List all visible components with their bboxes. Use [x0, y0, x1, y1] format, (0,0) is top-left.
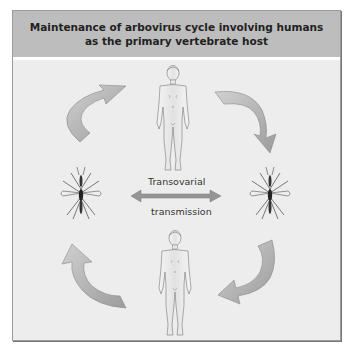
human-figure-bottom — [159, 231, 191, 336]
human-figure-top — [157, 66, 189, 171]
transovarial-double-arrow — [131, 190, 221, 202]
arrow-mosquito-left-to-human-top — [67, 85, 126, 142]
arrow-human-bottom-to-mosquito-left — [62, 244, 126, 308]
arrow-mosquito-right-to-human-bottom — [218, 240, 275, 304]
label-transovarial: Transovarial — [148, 176, 205, 187]
mosquito-right — [250, 167, 290, 219]
label-transmission: transmission — [151, 206, 212, 217]
diagram-canvas — [0, 0, 346, 350]
mosquito-left — [61, 167, 101, 219]
arrow-human-top-to-mosquito-right — [215, 91, 276, 153]
